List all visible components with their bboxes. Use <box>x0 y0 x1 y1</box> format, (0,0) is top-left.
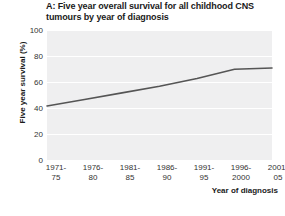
x-tick-line2: 80 <box>72 173 114 183</box>
x-axis-title: Year of diagnosis <box>0 186 278 195</box>
x-tick-line1: 1971- <box>35 163 77 173</box>
x-tick-line1: 1996- <box>220 163 262 173</box>
x-tick-line1: 1991- <box>183 163 225 173</box>
y-tick-label-40: 40 <box>3 105 43 113</box>
x-axis-tick-labels: 1971- 75 1976- 80 1981- 85 1986- 90 1991… <box>47 163 272 187</box>
y-tick-label-60: 60 <box>3 79 43 87</box>
x-tick-line2: 75 <box>35 173 77 183</box>
x-tick-line1: 2001- <box>257 163 285 173</box>
x-tick-label-1986-90: 1986- 90 <box>146 163 188 182</box>
x-tick-line2: 85 <box>109 173 151 183</box>
x-tick-line1: 1976- <box>72 163 114 173</box>
y-tick-label-80: 80 <box>3 53 43 61</box>
chart-title: A: Five year overall survival for all ch… <box>46 1 276 23</box>
plot-area <box>47 30 272 161</box>
y-tick-label-100: 100 <box>3 27 43 35</box>
x-tick-line2: 90 <box>146 173 188 183</box>
x-tick-line2: 95 <box>183 173 225 183</box>
data-series-line <box>47 30 272 161</box>
x-tick-label-2001-05: 2001- 05 <box>257 163 285 182</box>
x-tick-label-1996-2000: 1996- 2000 <box>220 163 262 182</box>
x-tick-line2: 2000 <box>220 173 262 183</box>
x-tick-label-1976-80: 1976- 80 <box>72 163 114 182</box>
x-tick-label-1991-95: 1991- 95 <box>183 163 225 182</box>
y-axis-tick-labels: 100 80 60 40 20 0 <box>0 0 43 216</box>
x-tick-label-1971-75: 1971- 75 <box>35 163 77 182</box>
y-tick-label-20: 20 <box>3 131 43 139</box>
x-tick-line2: 05 <box>257 173 285 183</box>
x-tick-label-1981-85: 1981- 85 <box>109 163 151 182</box>
x-tick-line1: 1986- <box>146 163 188 173</box>
chart-figure: A: Five year overall survival for all ch… <box>0 0 285 216</box>
x-tick-line1: 1981- <box>109 163 151 173</box>
footer-cutoff-artifact <box>0 208 285 216</box>
